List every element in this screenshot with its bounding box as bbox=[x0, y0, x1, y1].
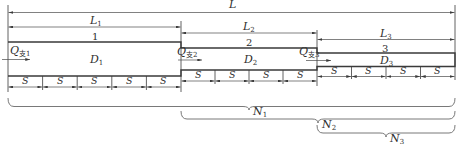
svg-text:S: S bbox=[160, 75, 167, 86]
svg-text:S: S bbox=[229, 69, 236, 80]
svg-text:S: S bbox=[263, 69, 270, 80]
brace-N3: N3 bbox=[317, 125, 455, 146]
svg-text:N1: N1 bbox=[252, 105, 267, 119]
diameter-D1: D1 bbox=[89, 53, 103, 67]
svg-text:S: S bbox=[195, 69, 202, 80]
svg-text:S: S bbox=[297, 69, 304, 80]
svg-text:S: S bbox=[22, 75, 29, 86]
spacing-dimensions-pipe-2: S S S S bbox=[182, 69, 317, 84]
brace-N2: N2 bbox=[181, 111, 455, 132]
pipe-section-2: 2 D2 Q支2 bbox=[177, 37, 257, 67]
svg-text:L2: L2 bbox=[242, 20, 255, 34]
svg-text:N2: N2 bbox=[321, 118, 336, 132]
pipe-segment-diagram: L L1 L2 L3 1 D1 Q支1 2 D2 Q支2 3 D3 Q支3 bbox=[0, 0, 463, 152]
svg-text:S: S bbox=[91, 75, 98, 86]
svg-text:S: S bbox=[57, 75, 64, 86]
svg-text:S: S bbox=[434, 65, 441, 76]
flow-label-Q1: Q支1 bbox=[10, 44, 31, 58]
pipe-number-1: 1 bbox=[92, 31, 98, 42]
dimension-total-length: L bbox=[9, 0, 455, 13]
svg-text:S: S bbox=[331, 65, 338, 76]
pipe-section-1: 1 D1 Q支1 bbox=[2, 31, 103, 67]
dimension-L1: L1 bbox=[9, 14, 181, 28]
pipe-section-3: 3 D3 Q支3 bbox=[299, 43, 393, 68]
pipe-number-2: 2 bbox=[246, 37, 252, 48]
brace-N1: N1 bbox=[8, 98, 455, 119]
svg-text:L3: L3 bbox=[379, 27, 392, 41]
svg-text:L: L bbox=[228, 0, 236, 11]
svg-text:S: S bbox=[126, 75, 133, 86]
diameter-D2: D2 bbox=[243, 53, 257, 67]
svg-text:N3: N3 bbox=[389, 132, 404, 146]
svg-text:L1: L1 bbox=[89, 14, 102, 28]
dimension-L2: L2 bbox=[182, 20, 317, 34]
flow-label-Q2: Q支2 bbox=[177, 45, 198, 59]
svg-text:S: S bbox=[365, 65, 372, 76]
pipe-number-3: 3 bbox=[382, 43, 388, 54]
svg-text:S: S bbox=[400, 65, 407, 76]
spacing-dimensions-pipe-1: S S S S S bbox=[9, 75, 181, 90]
dimension-L3: L3 bbox=[318, 27, 455, 41]
flow-label-Q3: Q支3 bbox=[299, 45, 320, 59]
diameter-D3: D3 bbox=[379, 54, 393, 68]
